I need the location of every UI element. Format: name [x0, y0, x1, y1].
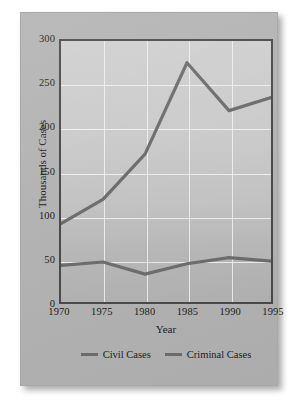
x-tick-label: 1990: [210, 306, 250, 318]
legend-swatch-icon: [165, 353, 182, 357]
legend-item: Criminal Cases: [165, 349, 251, 360]
series-line-civil-cases: [61, 63, 271, 224]
x-axis-ticks: 197019751980198519901995: [59, 306, 273, 320]
x-tick-label: 1970: [39, 306, 79, 318]
x-axis-title: Year: [59, 323, 273, 335]
legend-label: Civil Cases: [103, 349, 151, 360]
y-tick-label: 300: [19, 34, 55, 44]
plot-area: [59, 39, 273, 304]
line-chart: 050100150200250300 197019751980198519901…: [21, 13, 279, 387]
series-line-criminal-cases: [61, 258, 271, 275]
x-tick-label: 1980: [125, 306, 165, 318]
x-tick-label: 1975: [82, 306, 122, 318]
x-tick-label: 1985: [167, 306, 207, 318]
legend-item: Civil Cases: [81, 349, 151, 360]
legend-swatch-icon: [81, 353, 98, 357]
figure-card: 050100150200250300 197019751980198519901…: [20, 12, 278, 386]
y-tick-label: 50: [19, 255, 55, 265]
y-axis-title: Thousands of Cases: [36, 84, 48, 244]
chart-legend: Civil CasesCriminal Cases: [59, 349, 273, 360]
series-layer: [61, 41, 271, 302]
x-tick-label: 1995: [253, 306, 293, 318]
legend-label: Criminal Cases: [187, 349, 251, 360]
